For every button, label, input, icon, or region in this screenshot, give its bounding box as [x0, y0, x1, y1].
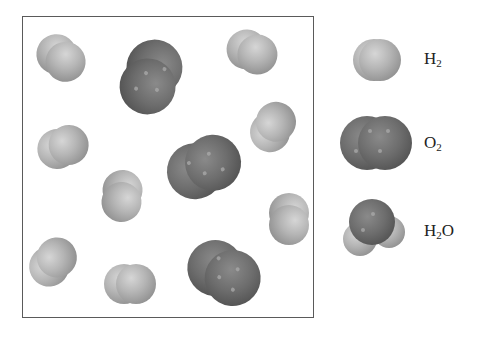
legend-h2-label: H2 — [424, 50, 442, 69]
legend-o2-label: O2 — [424, 134, 442, 153]
legend-h2o-label: H2O — [424, 222, 454, 241]
